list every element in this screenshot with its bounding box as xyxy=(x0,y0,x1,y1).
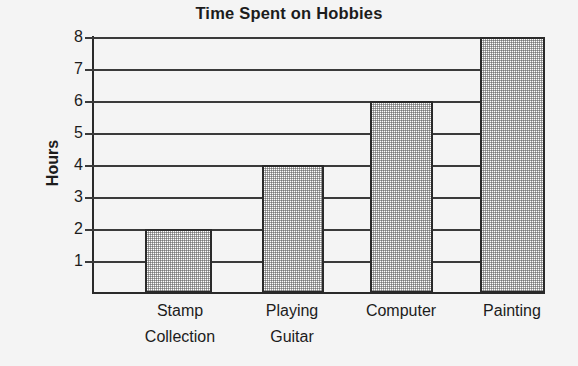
y-tick-label-4: 4 xyxy=(53,157,83,173)
chart-title: Time Spent on Hobbies xyxy=(0,4,578,23)
x-category-label-stamp-collection: Stamp Collection xyxy=(120,298,240,350)
x-category-line1: Playing xyxy=(232,298,352,324)
x-category-label-computer: Computer xyxy=(341,298,461,324)
y-tick-label-8: 8 xyxy=(53,29,83,45)
gridline-5 xyxy=(85,133,545,135)
y-tick-label-2: 2 xyxy=(53,221,83,237)
y-tick-label-5: 5 xyxy=(53,125,83,141)
y-tick-label-1: 1 xyxy=(53,253,83,269)
y-tick-label-7: 7 xyxy=(53,61,83,77)
y-axis-tick-labels: 8 7 6 5 4 3 2 1 xyxy=(50,37,83,293)
x-category-label-playing-guitar: Playing Guitar xyxy=(232,298,352,350)
bar-chart: Time Spent on Hobbies Hours 8 7 6 5 4 3 … xyxy=(0,0,578,366)
bar-computer xyxy=(370,101,433,293)
bar-stamp-collection xyxy=(145,229,212,293)
gridline-6 xyxy=(85,101,545,103)
y-tick-label-6: 6 xyxy=(53,93,83,109)
plot-area xyxy=(93,37,545,293)
bar-painting xyxy=(480,37,545,293)
gridline-8 xyxy=(85,37,545,39)
x-category-label-painting: Painting xyxy=(452,298,572,324)
x-category-line1: Stamp xyxy=(120,298,240,324)
x-category-line2: Collection xyxy=(120,324,240,350)
x-category-line1: Computer xyxy=(341,298,461,324)
x-category-line2: Guitar xyxy=(232,324,352,350)
y-tick-label-3: 3 xyxy=(53,189,83,205)
bar-playing-guitar xyxy=(262,165,324,293)
x-category-line1: Painting xyxy=(452,298,572,324)
gridline-7 xyxy=(85,69,545,71)
